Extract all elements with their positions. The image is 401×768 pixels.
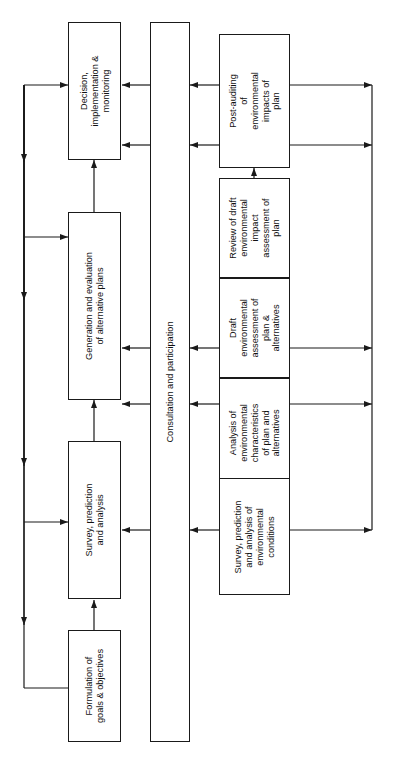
flowchart-diagram: Decision, implementation & monitoring Ge… bbox=[0, 0, 401, 768]
node-env-survey[interactable]: Survey, prediction and analysis of envir… bbox=[219, 478, 290, 595]
connector-layer bbox=[0, 0, 401, 768]
node-review[interactable]: Review of draft environmental impact ass… bbox=[219, 178, 290, 278]
node-consultation-label: Consultation and participation bbox=[165, 321, 176, 442]
node-analysis[interactable]: Analysis of environmental characteristic… bbox=[219, 378, 290, 487]
node-post-audit-label: Post-auditing of environmental impacts o… bbox=[227, 72, 281, 130]
node-analysis-label: Analysis of environmental characteristic… bbox=[227, 403, 281, 462]
node-formulation[interactable]: Formulation of goals & objectives bbox=[68, 630, 121, 742]
node-decision[interactable]: Decision, implementation & monitoring bbox=[68, 22, 121, 160]
node-formulation-label: Formulation of goals & objectives bbox=[84, 649, 106, 723]
node-env-survey-label: Survey, prediction and analysis of envir… bbox=[233, 500, 276, 573]
node-draft-ea-label: Draft environmental assessment of plan &… bbox=[227, 298, 281, 357]
node-draft-ea[interactable]: Draft environmental assessment of plan &… bbox=[219, 278, 290, 378]
node-survey[interactable]: Survey, prediction and analysis bbox=[68, 441, 121, 599]
node-decision-label: Decision, implementation & monitoring bbox=[78, 56, 111, 127]
node-generation-label: Generation and evaluation of alternative… bbox=[84, 252, 106, 360]
node-consultation[interactable]: Consultation and participation bbox=[150, 22, 190, 742]
node-survey-label: Survey, prediction and analysis bbox=[84, 484, 106, 557]
node-review-label: Review of draft environmental impact ass… bbox=[227, 197, 281, 258]
node-post-audit[interactable]: Post-auditing of environmental impacts o… bbox=[219, 34, 290, 168]
node-generation[interactable]: Generation and evaluation of alternative… bbox=[68, 212, 121, 400]
